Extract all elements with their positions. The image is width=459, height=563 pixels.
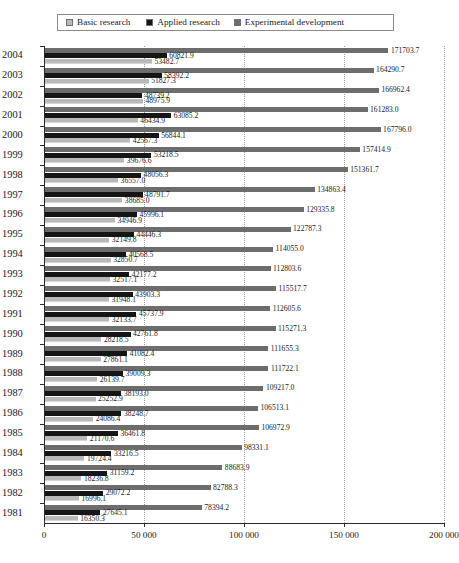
- bar-value-label: 171703.7: [391, 47, 419, 54]
- y-axis-year-label: 1987: [2, 387, 23, 398]
- y-axis-year-label: 2003: [2, 69, 23, 80]
- y-tick-mark: [40, 225, 44, 226]
- bar-value-label: 112605.6: [273, 305, 301, 312]
- bar-value-label: 112803.6: [273, 265, 301, 272]
- bar-value-label: 129335.8: [306, 206, 334, 213]
- gridline: [444, 46, 445, 523]
- bar-value-label: 36461.8: [120, 430, 145, 437]
- bar-value-label: 46434.9: [140, 117, 165, 124]
- bar-value-label: 38193.0: [124, 390, 149, 397]
- y-axis-year-label: 1981: [2, 507, 23, 518]
- x-tick-mark: [144, 523, 145, 527]
- bar-value-label: 157414.9: [362, 146, 390, 153]
- bar-value-label: 151361.7: [350, 166, 378, 173]
- bar-value-label: 45737.9: [139, 310, 164, 317]
- bar-basic-research: [45, 258, 111, 263]
- bar-value-label: 106972.9: [261, 424, 289, 431]
- bar-value-label: 51827.3: [151, 77, 176, 84]
- bar-experimental-development: [45, 406, 258, 411]
- bar-value-label: 78394.2: [204, 504, 229, 511]
- y-axis-year-label: 1992: [2, 288, 23, 299]
- y-tick-mark: [40, 324, 44, 325]
- legend-swatch-basic-research: [66, 19, 73, 26]
- bar-value-label: 39009.3: [126, 370, 151, 377]
- bar-basic-research: [45, 178, 118, 183]
- bar-group: 1989111655.341082.427861.1: [44, 344, 444, 364]
- bar-basic-research: [45, 476, 81, 481]
- bar-basic-research: [45, 397, 96, 402]
- y-axis-year-label: 1984: [2, 447, 23, 458]
- bar-value-label: 26139.7: [100, 376, 125, 383]
- bar-experimental-development: [45, 346, 268, 351]
- x-tick-mark: [44, 523, 45, 527]
- bar-group: 1998151361.748056.336557.0: [44, 165, 444, 185]
- bar-value-label: 109217.0: [266, 384, 294, 391]
- bar-value-label: 63085.2: [174, 112, 199, 119]
- y-tick-mark: [40, 106, 44, 107]
- y-tick-mark: [40, 463, 44, 464]
- bar-value-label: 166962.4: [381, 86, 409, 93]
- bar-basic-research: [45, 218, 115, 223]
- bar-value-label: 106513.1: [261, 404, 289, 411]
- y-axis-year-label: 1988: [2, 367, 23, 378]
- bar-value-label: 39676.6: [127, 157, 152, 164]
- bar-value-label: 32149.8: [112, 236, 137, 243]
- y-tick-mark: [40, 185, 44, 186]
- y-axis-year-label: 1985: [2, 427, 23, 438]
- bar-value-label: 42761.8: [133, 330, 158, 337]
- bar-basic-research: [45, 238, 109, 243]
- bar-value-label: 114055.0: [276, 245, 304, 252]
- bar-group: 198498331.133216.519724.4: [44, 444, 444, 464]
- bar-basic-research: [45, 377, 97, 382]
- bar-value-label: 32517.1: [113, 276, 138, 283]
- x-tick-label: 100 000: [229, 530, 259, 540]
- bar-value-label: 32850.7: [113, 256, 138, 263]
- y-tick-mark: [40, 483, 44, 484]
- bar-experimental-development: [45, 266, 271, 271]
- bar-group: 1992115517.743903.331948.1: [44, 285, 444, 305]
- bar-experimental-development: [45, 326, 276, 331]
- bar-value-label: 29072.2: [106, 489, 131, 496]
- y-tick-mark: [40, 46, 44, 47]
- bar-value-label: 53218.5: [154, 151, 179, 158]
- bar-experimental-development: [45, 227, 291, 232]
- y-axis-year-label: 1983: [2, 467, 23, 478]
- bar-group: 2001161283.063085.246434.9: [44, 106, 444, 126]
- y-axis-year-label: 2004: [2, 49, 23, 60]
- x-tick-label: 0: [42, 530, 47, 540]
- bar-value-label: 167796.0: [383, 126, 411, 133]
- x-tick-mark: [444, 523, 445, 527]
- bar-group: 2004171703.760821.953482.7: [44, 46, 444, 66]
- bar-value-label: 34946.9: [117, 217, 142, 224]
- y-axis-year-label: 1990: [2, 328, 23, 339]
- bar-value-label: 122787.3: [293, 225, 321, 232]
- plot-area: 050 000100 000150 000200 000 2004171703.…: [44, 46, 444, 523]
- y-axis-year-label: 2001: [2, 109, 23, 120]
- bar-value-label: 82788.3: [213, 484, 238, 491]
- bar-experimental-development: [45, 445, 242, 450]
- bar-experimental-development: [45, 88, 379, 93]
- bar-experimental-development: [45, 127, 381, 132]
- y-tick-mark: [40, 126, 44, 127]
- y-tick-mark: [40, 265, 44, 266]
- legend-swatch-applied-research: [146, 19, 153, 26]
- chart-legend: Basic research Applied research Experime…: [57, 14, 394, 31]
- bar-experimental-development: [45, 425, 259, 430]
- y-axis-year-label: 2002: [2, 89, 23, 100]
- x-tick-label: 50 000: [131, 530, 156, 540]
- y-tick-mark: [40, 304, 44, 305]
- bar-basic-research: [45, 79, 149, 84]
- y-tick-mark: [40, 145, 44, 146]
- bar-value-label: 44446.3: [136, 231, 161, 238]
- bar-group: 198282788.329072.216996.1: [44, 483, 444, 503]
- y-tick-mark: [40, 364, 44, 365]
- legend-item-basic-research: Basic research: [66, 18, 130, 27]
- bar-value-label: 16996.1: [81, 495, 106, 502]
- bar-basic-research: [45, 99, 143, 104]
- y-axis-year-label: 1982: [2, 487, 23, 498]
- bar-experimental-development: [45, 286, 276, 291]
- bar-applied-research: [45, 73, 162, 78]
- bar-group: 1999157414.953218.539676.6: [44, 145, 444, 165]
- bar-value-label: 111722.1: [271, 365, 299, 372]
